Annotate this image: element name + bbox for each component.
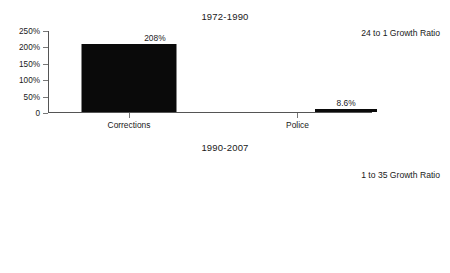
growth-ratio-annotation: 24 to 1 Growth Ratio [361, 28, 440, 38]
x-tick-label-police: Police [286, 120, 309, 130]
y-tick-mark [43, 97, 48, 98]
y-tick-mark [43, 113, 48, 114]
growth-ratio-annotation: 1 to 35 Growth Ratio [361, 170, 440, 180]
y-tick-mark [43, 64, 48, 65]
plot-area: 0 50% 100% 150% 200% 250% Corrections Po… [48, 31, 372, 113]
bar-corrections [82, 44, 177, 112]
y-tick-label: 50% [24, 92, 40, 101]
x-tick-mark [129, 113, 130, 118]
x-tick-label-corrections: Corrections [108, 120, 151, 130]
y-axis-line [48, 31, 49, 113]
x-axis-line [48, 112, 372, 113]
y-tick-label: 0 [35, 109, 40, 118]
chart-panel-1990-2007: 1990-2007 1 to 35 Growth Ratio 0 25% 50%… [0, 136, 450, 273]
bar-value-label-police: 8.6% [337, 98, 356, 108]
bar-value-label-corrections: 208% [144, 33, 165, 43]
chart-title: 1972-1990 [0, 11, 450, 22]
x-tick-mark [297, 113, 298, 118]
chart-title: 1990-2007 [0, 142, 450, 153]
y-tick-label: 250% [19, 27, 40, 36]
y-tick-mark [43, 31, 48, 32]
y-tick-label: 200% [19, 43, 40, 52]
y-tick-mark [43, 80, 48, 81]
chart-panel-1972-1990: 1972-1990 24 to 1 Growth Ratio 0 50% 100… [0, 0, 450, 136]
y-tick-mark [43, 47, 48, 48]
bar-police [315, 109, 377, 112]
y-tick-label: 100% [19, 76, 40, 85]
y-tick-label: 150% [19, 59, 40, 68]
